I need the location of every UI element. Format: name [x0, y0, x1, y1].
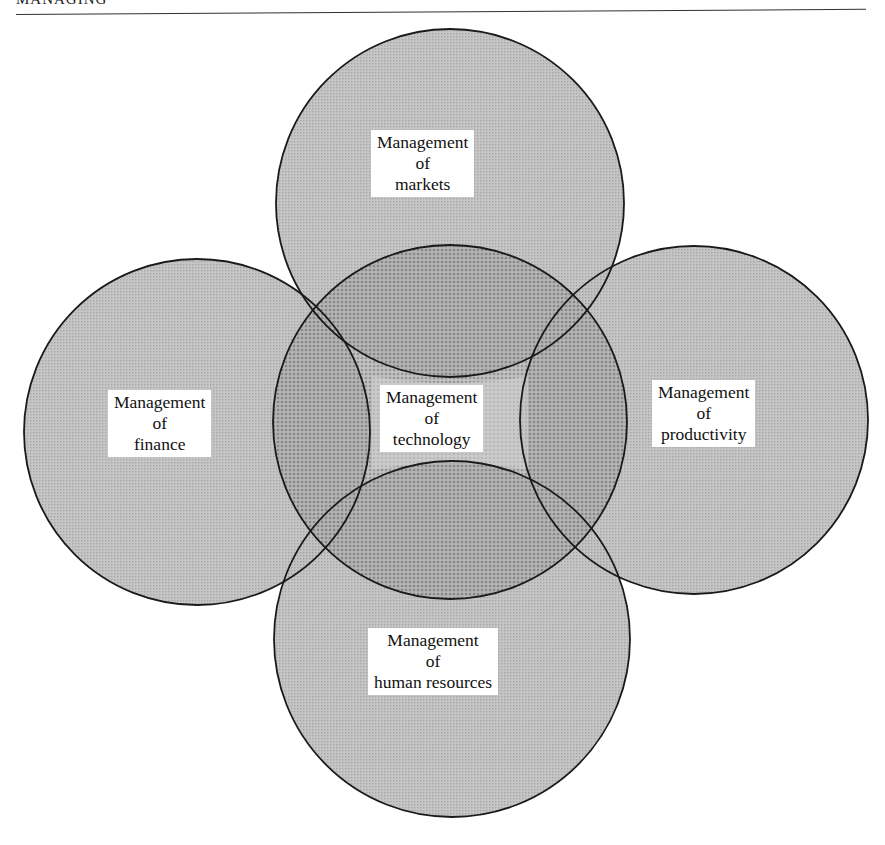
label-productivity-line-2: of — [658, 403, 749, 424]
label-finance: Management of finance — [108, 390, 211, 457]
label-human-resources-line-2: of — [374, 651, 492, 672]
label-human-resources: Management of human resources — [368, 628, 498, 695]
label-technology-line-2: of — [386, 408, 477, 429]
label-technology: Management of technology — [380, 385, 483, 452]
label-markets: Management of markets — [371, 130, 474, 197]
label-productivity-line-1: Management — [658, 382, 749, 403]
label-markets-line-1: Management — [377, 132, 468, 153]
label-human-resources-line-3: human resources — [374, 672, 492, 693]
label-technology-line-1: Management — [386, 387, 477, 408]
label-finance-line-1: Management — [114, 392, 205, 413]
label-finance-line-2: of — [114, 413, 205, 434]
label-finance-line-3: finance — [114, 434, 205, 455]
label-technology-line-3: technology — [386, 429, 477, 450]
label-productivity-line-3: productivity — [658, 424, 749, 445]
label-human-resources-line-1: Management — [374, 630, 492, 651]
label-markets-line-3: markets — [377, 174, 468, 195]
label-productivity: Management of productivity — [652, 380, 755, 447]
label-markets-line-2: of — [377, 153, 468, 174]
